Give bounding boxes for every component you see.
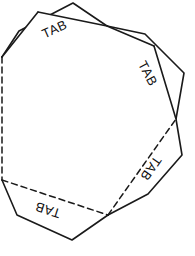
- papercraft-net-figure: TAB TAB TAB TAB: [0, 0, 195, 256]
- net-diagram-svg: TAB TAB TAB TAB: [0, 0, 195, 256]
